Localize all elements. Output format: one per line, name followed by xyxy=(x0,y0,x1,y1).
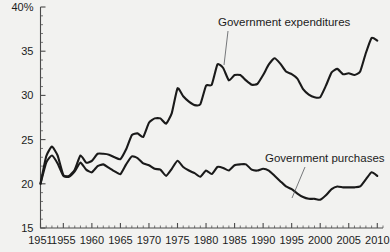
series-group xyxy=(41,38,378,200)
expenditures-annotation-label: Government expenditures xyxy=(218,16,351,28)
x-tick-label-1980: 1980 xyxy=(194,234,218,246)
x-tick-label-1975: 1975 xyxy=(165,234,189,246)
x-tick-label-1970: 1970 xyxy=(137,234,161,246)
x-tick-label-2005: 2005 xyxy=(337,234,361,246)
x-tick-label-1985: 1985 xyxy=(222,234,246,246)
axis-lines xyxy=(41,7,384,228)
x-tick-label-1951: 1951 xyxy=(28,234,52,246)
y-tick-label-35: 35 xyxy=(21,45,33,57)
y-tick-label-25: 25 xyxy=(21,134,33,146)
expenditures-annotation-leader-line xyxy=(224,31,228,65)
line-chart: 152025303540% 19511955196019651970197519… xyxy=(0,0,390,252)
x-tick-label-2000: 2000 xyxy=(308,234,332,246)
minor-ticks-group xyxy=(41,16,384,228)
x-tick-label-2010: 2010 xyxy=(365,234,389,246)
annotations-group: Government expendituresGovernment purcha… xyxy=(218,16,385,198)
x-axis-labels: 1951195519601965197019751980198519901995… xyxy=(28,234,389,246)
chart-container: 152025303540% 19511955196019651970197519… xyxy=(0,0,390,252)
axes-group xyxy=(41,7,384,228)
y-axis-labels: 152025303540% xyxy=(11,1,33,234)
y-tick-label-30: 30 xyxy=(21,89,33,101)
y-tick-label-15: 15 xyxy=(21,222,33,234)
x-tick-label-1995: 1995 xyxy=(279,234,303,246)
x-tick-label-1955: 1955 xyxy=(51,234,75,246)
y-tick-label-40: 40% xyxy=(11,1,33,13)
purchases-annotation-label: Government purchases xyxy=(265,152,385,164)
x-tick-label-1960: 1960 xyxy=(80,234,104,246)
y-tick-label-20: 20 xyxy=(21,178,33,190)
x-tick-label-1990: 1990 xyxy=(251,234,275,246)
x-tick-label-1965: 1965 xyxy=(108,234,132,246)
